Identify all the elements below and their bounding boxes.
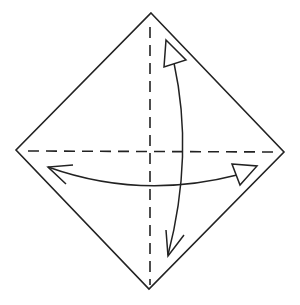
vertical-fold-arrow [164, 40, 186, 256]
vertical-arrow-shaft [168, 63, 183, 255]
origami-diagram [0, 0, 300, 305]
vertical-arrow-hollow-head-icon [164, 40, 186, 67]
horizontal-arrow-shaft [48, 167, 237, 186]
horizontal-fold-arrow [48, 164, 257, 186]
horizontal-arrow-hollow-head-icon [232, 164, 257, 185]
horizontal-valley-fold-line [28, 151, 276, 152]
